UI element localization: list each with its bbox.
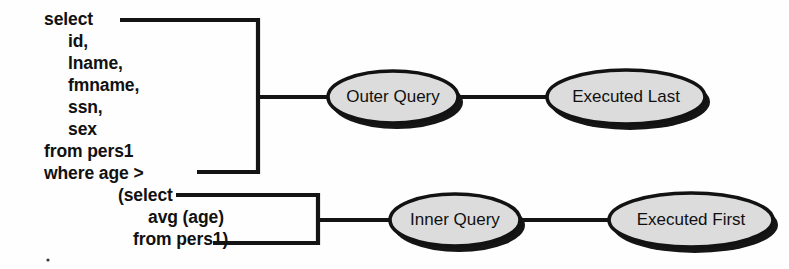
- outer-query-bracket: [120, 20, 332, 172]
- node-inner-query[interactable]: Inner Query: [390, 194, 525, 252]
- outer-query-sql-block: select id, lname, fmname, ssn, sex from …: [43, 9, 144, 183]
- outer-sql-line-sex: sex: [68, 119, 97, 139]
- executed-last-node-label: Executed Last: [572, 87, 680, 106]
- inner-sql-line-from: from pers1): [133, 229, 228, 249]
- diagram-canvas: select id, lname, fmname, ssn, sex from …: [0, 0, 789, 269]
- node-outer-query[interactable]: Outer Query: [328, 71, 463, 129]
- outer-sql-line-ssn: ssn,: [68, 97, 103, 117]
- outer-sql-line-lname: lname,: [68, 53, 123, 73]
- outer-query-node-label: Outer Query: [346, 87, 440, 106]
- node-executed-last[interactable]: Executed Last: [547, 70, 710, 130]
- scan-artifact-speck: [46, 258, 49, 261]
- outer-sql-line-fmname: fmname,: [68, 75, 139, 95]
- outer-sql-line-from: from pers1: [44, 141, 134, 161]
- inner-sql-line-avg: avg (age): [148, 207, 224, 227]
- inner-sql-line-select: (select: [118, 185, 173, 205]
- outer-sql-line-select: select: [44, 9, 93, 29]
- sql-execution-order-diagram: select id, lname, fmname, ssn, sex from …: [0, 0, 789, 269]
- outer-sql-line-id: id,: [68, 31, 88, 51]
- executed-first-node-label: Executed First: [637, 210, 746, 229]
- inner-query-node-label: Inner Query: [410, 210, 500, 229]
- node-executed-first[interactable]: Executed First: [609, 193, 778, 253]
- outer-sql-line-where: where age >: [43, 163, 144, 183]
